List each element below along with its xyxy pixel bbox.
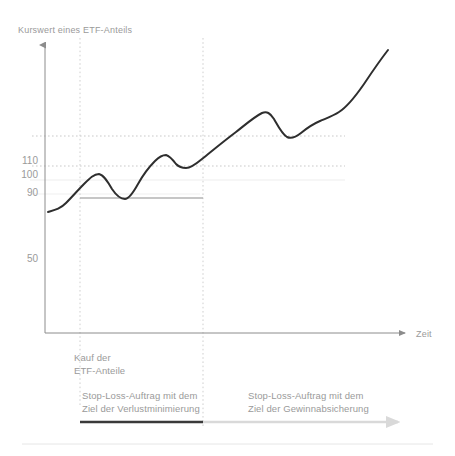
purchase-annotation-line1: Kauf der: [74, 352, 125, 365]
price-curve: [48, 50, 388, 212]
y-tick-90: 90: [12, 186, 38, 200]
phase-2-annotation-line1: Stop-Loss-Auftrag mit dem: [248, 390, 369, 403]
y-tick-50: 50: [12, 252, 38, 266]
chart-container: Kurswert eines ETF-Anteils Zeit 110 100 …: [0, 0, 455, 456]
y-tick-110: 110: [12, 154, 38, 168]
chart-canvas: [0, 0, 455, 456]
phase-2-annotation: Stop-Loss-Auftrag mit dem Ziel der Gewin…: [248, 390, 369, 416]
phase-1-annotation: Stop-Loss-Auftrag mit dem Ziel der Verlu…: [82, 390, 200, 416]
purchase-annotation-line2: ETF-Anteile: [74, 365, 125, 378]
phase-1-annotation-line1: Stop-Loss-Auftrag mit dem: [82, 390, 200, 403]
purchase-annotation: Kauf der ETF-Anteile: [74, 352, 125, 378]
y-tick-100: 100: [12, 168, 38, 182]
y-axis-title: Kurswert eines ETF-Anteils: [18, 24, 132, 36]
phase-2-annotation-line2: Ziel der Gewinnabsicherung: [248, 403, 369, 416]
x-axis-title: Zeit: [416, 328, 432, 340]
phase-1-annotation-line2: Ziel der Verlustminimierung: [82, 403, 200, 416]
